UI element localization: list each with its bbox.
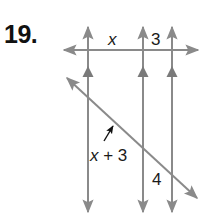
parallel-marker-icon <box>138 66 149 77</box>
label-bottom-right: 4 <box>152 170 161 189</box>
diagonal-transversal <box>67 78 197 198</box>
parallel-line-3 <box>167 27 178 212</box>
label-pointer-arrow-icon <box>104 126 113 141</box>
label-bottom-left: x + 3 <box>89 146 127 165</box>
parallel-line-2 <box>138 27 149 212</box>
parallel-marker-icon <box>83 66 94 77</box>
parallel-marker-icon <box>167 66 178 77</box>
parallel-line-1 <box>83 27 94 212</box>
parallel-lines-diagram: x 3 x + 3 4 <box>0 0 213 219</box>
label-top-left: x <box>107 30 117 49</box>
label-top-right: 3 <box>151 30 160 49</box>
